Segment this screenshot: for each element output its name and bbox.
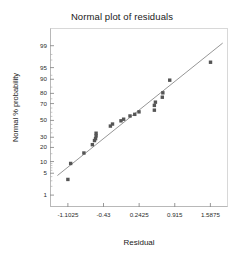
data-point	[69, 162, 72, 165]
data-point	[133, 113, 136, 116]
data-point	[111, 122, 114, 125]
reference-line	[57, 43, 222, 175]
data-point	[161, 91, 164, 94]
normal-probability-plot: Normal plot of residuals 151020305070809…	[0, 0, 244, 258]
data-point	[154, 100, 157, 103]
x-axis-title: Residual	[50, 238, 228, 247]
y-axis-tick-label: 10	[33, 159, 47, 165]
data-point	[168, 78, 171, 81]
data-point	[153, 108, 156, 111]
y-axis-tick-labels: 15102030507080909599	[30, 28, 47, 207]
y-axis-tick-label: 50	[33, 117, 47, 123]
plot-canvas	[50, 28, 228, 207]
data-point	[94, 132, 97, 135]
data-point-series	[66, 61, 212, 182]
data-point	[137, 110, 140, 113]
data-point	[91, 143, 94, 146]
data-point	[122, 118, 125, 121]
data-point	[128, 114, 131, 117]
chart-title: Normal plot of residuals	[0, 11, 244, 22]
x-axis-tick-label: 1.5875	[188, 211, 232, 218]
y-axis-tick-label: 80	[33, 90, 47, 96]
x-axis-tick-labels: -1.1025-0.430.24250.9151.5875	[50, 211, 228, 223]
y-axis-tick-label: 70	[33, 101, 47, 107]
y-axis-tick-label: 5	[33, 170, 47, 176]
y-axis-tick-label: 99	[33, 43, 47, 49]
data-point	[161, 96, 164, 99]
data-point	[209, 61, 212, 64]
y-axis-tick-label: 95	[33, 65, 47, 71]
y-axis-title: Normal % probability	[11, 53, 20, 163]
data-point	[66, 178, 69, 181]
y-axis-tick-label: 90	[33, 76, 47, 82]
y-axis-tick-label: 30	[33, 134, 47, 140]
y-axis-tick-label: 20	[33, 144, 47, 150]
data-point	[82, 151, 85, 154]
data-point	[153, 104, 156, 107]
y-axis-tick-label: 1	[33, 192, 47, 198]
